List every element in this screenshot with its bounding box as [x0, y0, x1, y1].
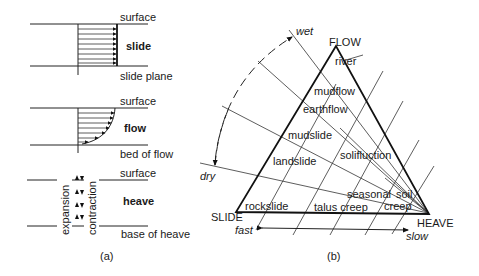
slide-surface-label: surface: [120, 11, 156, 23]
panel-a: surface slide slide plane surface flow b…: [27, 11, 190, 262]
slide-profile: surface slide slide plane: [30, 11, 173, 82]
region-seasonal: seasonal: [347, 188, 391, 200]
region-earthflow: earthflow: [303, 103, 348, 115]
region-mudflow: mudflow: [314, 85, 355, 97]
panel-b: wet dry FLOW SLIDE HEAVE fast slow river…: [200, 25, 453, 262]
region-river: river: [335, 55, 357, 67]
heave-profile: expansion contraction surface heave base…: [27, 167, 190, 240]
region-talus-creep: talus creep: [314, 201, 368, 213]
heave-expansion-contraction-arrows: [75, 175, 84, 220]
vertex-slide-label: SLIDE: [211, 211, 243, 223]
speed-axis-arrow: [262, 228, 408, 230]
panel-a-caption: (a): [100, 250, 113, 262]
vertex-heave-label: HEAVE: [417, 217, 453, 229]
heave-surface-label: surface: [120, 167, 156, 179]
wet-label: wet: [296, 25, 314, 37]
mass-movement-diagram: surface slide slide plane surface flow b…: [0, 0, 479, 276]
region-creep: creep: [384, 200, 412, 212]
flow-surface-label: surface: [120, 95, 156, 107]
flow-bed-label: bed of flow: [120, 148, 173, 160]
slide-plane-label: slide plane: [120, 70, 173, 82]
flow-profile: surface flow bed of flow: [30, 95, 173, 160]
fast-label: fast: [235, 224, 254, 236]
vertex-flow-label: FLOW: [329, 36, 361, 48]
region-solifluction: solifluction: [340, 149, 391, 161]
heave-title: heave: [123, 195, 154, 207]
dry-label: dry: [200, 170, 217, 182]
slow-label: slow: [406, 230, 429, 242]
moisture-arc-dry-arrow: [215, 110, 228, 165]
expansion-label: expansion: [59, 185, 71, 235]
panel-b-caption: (b): [327, 250, 340, 262]
region-mudslide: mudslide: [288, 129, 332, 141]
moisture-grid-lines: [200, 30, 428, 213]
region-soil: soil: [396, 188, 413, 200]
slide-velocity-arrows: [78, 29, 116, 63]
region-landslide: landslide: [273, 155, 316, 167]
region-rockslide: rockslide: [245, 200, 288, 212]
slide-title: slide: [126, 40, 151, 52]
flow-title: flow: [124, 122, 146, 134]
contraction-label: contraction: [86, 181, 98, 235]
moisture-arc-wet-arrow: [215, 37, 292, 165]
heave-base-label: base of heave: [121, 228, 190, 240]
